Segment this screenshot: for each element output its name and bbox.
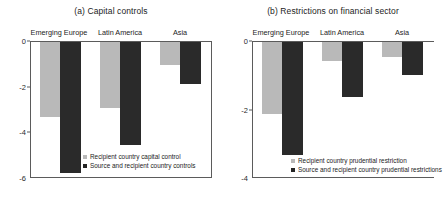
panel-b-legend-label-recipient: Recipient country prudential restriction	[298, 156, 407, 165]
legend-swatch-dark-icon	[83, 164, 87, 168]
panel-a-ytick-0: 0	[0, 37, 26, 46]
panel-b-legend-label-source-recipient: Source and recipient country prudential …	[298, 165, 442, 174]
bar-a-asia-recipient	[160, 42, 180, 65]
bar-a-emerging-europe-source-recipient	[60, 42, 81, 173]
bar-b-emerging-europe-recipient	[262, 42, 282, 114]
bar-a-latin-america-source-recipient	[120, 42, 141, 145]
legend-swatch-dark-icon	[291, 168, 295, 172]
panel-a-title: (a) Capital controls	[0, 6, 222, 16]
figure-two-panel-bar-charts: (a) Capital controls 0 -2 -4 -6 Emerging…	[0, 0, 444, 197]
panel-b-ytick-minus4: -4	[222, 174, 248, 183]
panel-a-ytick-minus6: -6	[0, 174, 26, 183]
panel-b-legend-item-recipient: Recipient country prudential restriction	[291, 156, 442, 165]
panel-a-legend-item-recipient: Recipient country capital control	[83, 152, 196, 161]
panel-restrictions-financial-sector: (b) Restrictions on financial sector 0 -…	[222, 0, 444, 197]
panel-capital-controls: (a) Capital controls 0 -2 -4 -6 Emerging…	[0, 0, 222, 197]
panel-b-group-label-emerging-europe: Emerging Europe	[253, 28, 310, 37]
panel-a-group-label-emerging-europe: Emerging Europe	[31, 28, 88, 37]
panel-a-group-label-asia: Asia	[173, 28, 187, 37]
bar-b-asia-source-recipient	[402, 42, 423, 75]
bar-a-asia-source-recipient	[180, 42, 201, 84]
panel-a-legend: Recipient country capital control Source…	[83, 152, 196, 170]
panel-b-legend-item-source-recipient: Source and recipient country prudential …	[291, 165, 442, 174]
bar-a-latin-america-recipient	[100, 42, 120, 108]
bar-b-asia-recipient	[382, 42, 402, 57]
legend-swatch-light-icon	[83, 155, 87, 159]
panel-a-legend-label-recipient: Recipient country capital control	[90, 152, 181, 161]
legend-swatch-light-icon	[291, 159, 295, 163]
panel-b-group-label-latin-america: Latin America	[320, 28, 364, 37]
panel-a-group-label-latin-america: Latin America	[98, 28, 142, 37]
panel-b-title: (b) Restrictions on financial sector	[222, 6, 444, 16]
bar-b-latin-america-source-recipient	[342, 42, 363, 97]
bar-b-emerging-europe-source-recipient	[282, 42, 303, 155]
panel-b-ytick-0: 0	[222, 37, 248, 46]
panel-b-legend: Recipient country prudential restriction…	[291, 156, 442, 174]
panel-a-plot-area: Recipient country capital control Source…	[30, 41, 212, 178]
bar-b-latin-america-recipient	[322, 42, 342, 61]
panel-a-legend-label-source-recipient: Source and recipient country controls	[90, 161, 196, 170]
bar-a-emerging-europe-recipient	[40, 42, 60, 117]
panel-a-ytick-minus2: -2	[0, 82, 26, 91]
panel-b-plot-area: Recipient country prudential restriction…	[252, 41, 434, 178]
panel-a-ytick-minus4: -4	[0, 128, 26, 137]
panel-b-ytick-minus2: -2	[222, 105, 248, 114]
panel-a-legend-item-source-recipient: Source and recipient country controls	[83, 161, 196, 170]
panel-b-group-label-asia: Asia	[395, 28, 409, 37]
